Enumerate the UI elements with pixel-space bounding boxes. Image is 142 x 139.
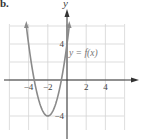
x-tick-label: 2	[84, 82, 89, 92]
x-axis-arrow-icon	[131, 78, 139, 83]
function-label: y = f(x)	[68, 48, 98, 59]
axes: y	[4, 0, 139, 139]
curve-end-arrow-icon	[24, 21, 29, 28]
function-graph: y −4−2244−4y = f(x)	[0, 0, 142, 139]
curve-end-arrow-icon	[67, 21, 72, 28]
x-tick-label: −2	[43, 82, 53, 92]
x-tick-label: 4	[103, 82, 108, 92]
y-axis-label: y	[62, 0, 68, 9]
y-axis-arrow-icon	[65, 9, 70, 17]
y-tick-label: −4	[54, 111, 64, 121]
x-tick-label: −4	[24, 82, 34, 92]
y-tick-label: 4	[60, 39, 65, 49]
